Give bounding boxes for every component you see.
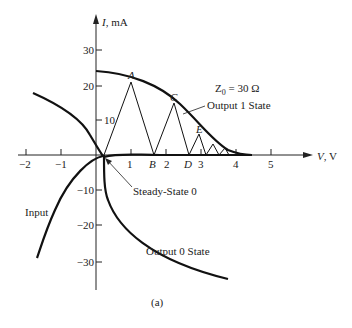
svg-text:D: D bbox=[183, 158, 192, 170]
svg-text:2: 2 bbox=[164, 158, 170, 170]
svg-text:3: 3 bbox=[198, 158, 204, 170]
svg-text:−10: −10 bbox=[77, 184, 95, 196]
output-0-state-label: Output 0 State bbox=[146, 245, 210, 257]
svg-text:10: 10 bbox=[104, 114, 116, 126]
steady-state-label: Steady-State 0 bbox=[133, 185, 197, 197]
svg-text:A: A bbox=[127, 69, 135, 81]
svg-text:30: 30 bbox=[83, 44, 95, 56]
svg-text:−2: −2 bbox=[19, 158, 31, 170]
iv-characteristic-chart: I, mA V, V −2 −1 1 2 3 4 5 30 20 10 −10 … bbox=[0, 0, 352, 328]
x-axis-label: V, V bbox=[317, 150, 337, 162]
input-label: Input bbox=[25, 206, 48, 218]
y-axis-arrow-icon bbox=[93, 14, 99, 24]
svg-text:−20: −20 bbox=[77, 219, 95, 231]
svg-text:−1: −1 bbox=[55, 158, 67, 170]
figure-caption: (a) bbox=[151, 296, 164, 309]
svg-text:4: 4 bbox=[233, 158, 239, 170]
svg-text:C: C bbox=[170, 91, 178, 103]
input-curve bbox=[33, 93, 103, 258]
x-axis-arrow-icon bbox=[303, 152, 313, 158]
y-axis-label: I, mA bbox=[101, 16, 128, 28]
low-output-flat-curve bbox=[104, 155, 252, 158]
svg-text:E: E bbox=[195, 123, 203, 135]
output-1-state-label: Output 1 State bbox=[207, 99, 271, 111]
svg-text:5: 5 bbox=[268, 158, 274, 170]
output-0-state-curve bbox=[104, 155, 228, 279]
x-tick-labels: −2 −1 1 2 3 4 5 bbox=[19, 158, 274, 170]
svg-text:−30: −30 bbox=[77, 256, 95, 268]
svg-text:20: 20 bbox=[83, 80, 95, 92]
svg-text:B: B bbox=[149, 158, 156, 170]
svg-text:1: 1 bbox=[127, 158, 133, 170]
z0-annotation: Z0 = 30 Ω bbox=[215, 82, 259, 97]
